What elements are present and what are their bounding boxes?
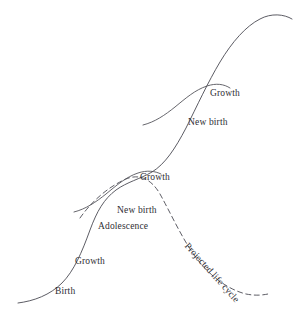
- label-growth-upper: Growth: [210, 89, 240, 99]
- main-life-cycle-curve: [18, 15, 292, 303]
- life-cycle-diagram-svg: [0, 0, 298, 313]
- label-growth-middle: Growth: [140, 173, 170, 183]
- label-birth: Birth: [55, 287, 75, 297]
- label-new-birth-upper: New birth: [188, 118, 228, 128]
- label-new-birth-lower: New birth: [117, 206, 157, 216]
- label-growth-lower: Growth: [75, 257, 105, 267]
- label-adolescence: Adolescence: [98, 222, 148, 232]
- projected-life-cycle-curve: [80, 177, 268, 295]
- diagram-canvas: Birth Growth Adolescence New birth Growt…: [0, 0, 298, 313]
